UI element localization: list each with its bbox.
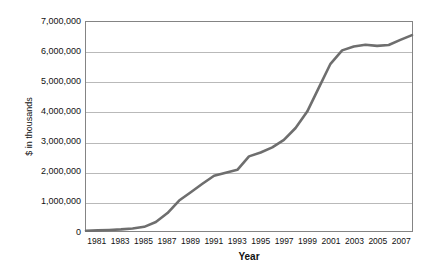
x-tick-label: 1997 xyxy=(275,236,294,247)
x-tick-label: 1987 xyxy=(158,236,177,247)
y-tick-label: 0 xyxy=(34,228,81,237)
x-axis-title: Year xyxy=(85,251,413,262)
y-tick-label: 1,000,000 xyxy=(34,197,81,206)
series-line-total xyxy=(86,22,412,231)
x-axis-tick-labels: 1981198319851987198919911993199519971999… xyxy=(85,236,413,248)
plot-area xyxy=(85,21,413,232)
y-tick-label: 5,000,000 xyxy=(34,77,81,86)
x-tick-label: 1983 xyxy=(111,236,130,247)
x-tick-label: 1981 xyxy=(87,236,106,247)
x-tick-label: 1993 xyxy=(228,236,247,247)
y-tick-label: 7,000,000 xyxy=(34,17,81,26)
line-chart-figure: $ in thousands 01,000,0002,000,0003,000,… xyxy=(0,0,434,271)
y-tick-label: 3,000,000 xyxy=(34,137,81,146)
x-tick-label: 1985 xyxy=(134,236,153,247)
y-tick-label: 6,000,000 xyxy=(34,47,81,56)
x-tick-label: 1989 xyxy=(181,236,200,247)
y-tick-label: 2,000,000 xyxy=(34,167,81,176)
x-tick-label: 2005 xyxy=(368,236,387,247)
x-tick-label: 1995 xyxy=(251,236,270,247)
x-tick-label: 1991 xyxy=(204,236,223,247)
x-tick-label: 2001 xyxy=(322,236,341,247)
x-tick-label: 1999 xyxy=(298,236,317,247)
y-tick-label: 4,000,000 xyxy=(34,107,81,116)
y-axis-tick-labels: 01,000,0002,000,0003,000,0004,000,0005,0… xyxy=(34,0,81,271)
x-tick-label: 2003 xyxy=(345,236,364,247)
x-tick-label: 2007 xyxy=(392,236,411,247)
